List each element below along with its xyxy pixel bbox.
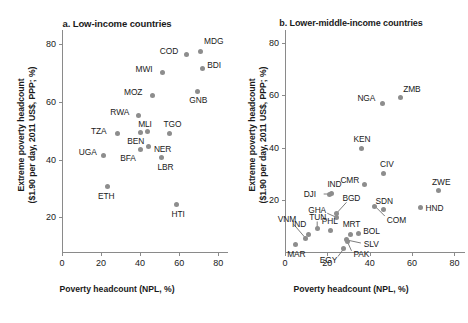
- data-point-zwe[interactable]: [436, 188, 441, 193]
- data-point-mwi[interactable]: [160, 70, 165, 75]
- x-axis-line: [62, 252, 228, 253]
- point-label-ind: IND: [292, 219, 306, 229]
- data-point-mrt[interactable]: [348, 232, 353, 237]
- data-point-mdg[interactable]: [198, 49, 203, 54]
- point-label-pak: PAK: [353, 249, 369, 259]
- data-point-lbr[interactable]: [159, 155, 164, 160]
- panel-title-b: b. Lower-middle-income countries: [234, 18, 468, 28]
- y-axis-label-line2: ($1.90 per day, 2011 US$, PPP; %): [258, 25, 269, 245]
- data-point-gnb[interactable]: [195, 89, 200, 94]
- point-label-rwa: RWA: [110, 107, 129, 117]
- x-tick-mark: [454, 253, 455, 256]
- x-tick-label: 60: [167, 258, 191, 268]
- data-point-hti[interactable]: [174, 202, 179, 207]
- data-point-mar[interactable]: [293, 242, 298, 247]
- point-label-tgo: TGO: [164, 119, 182, 129]
- point-label-ken: KEN: [353, 134, 370, 144]
- point-label-lbr: LBR: [157, 162, 173, 172]
- x-tick-label: 0: [273, 258, 297, 268]
- x-tick-mark: [140, 253, 141, 256]
- x-tick-label: 80: [206, 258, 230, 268]
- data-point-nga[interactable]: [380, 101, 385, 106]
- x-tick-mark: [62, 253, 63, 256]
- point-label-uga: UGA: [79, 147, 97, 157]
- data-point-hnd[interactable]: [418, 205, 423, 210]
- point-label-moz: MOZ: [124, 87, 142, 97]
- x-axis-label: Poverty headcount (NPL, %): [0, 284, 234, 294]
- y-axis-line: [62, 30, 63, 252]
- point-label-nga: NGA: [357, 93, 375, 103]
- data-point-tgo[interactable]: [167, 131, 172, 136]
- point-label-ben: BEN: [127, 136, 144, 146]
- data-point-tun[interactable]: [315, 226, 320, 231]
- point-label-com: COM: [387, 215, 406, 225]
- data-point-civ[interactable]: [381, 171, 386, 176]
- y-axis-label-line1: Extreme poverty headcount: [16, 25, 27, 245]
- data-point-bdi[interactable]: [200, 66, 205, 71]
- y-tick-mark: [59, 44, 62, 45]
- data-point-sdn[interactable]: [381, 207, 386, 212]
- x-tick-label: 40: [128, 258, 152, 268]
- data-point-bol[interactable]: [356, 231, 361, 236]
- x-tick-label: 80: [442, 258, 466, 268]
- data-point-cod[interactable]: [184, 52, 189, 57]
- scatter-panel-b: b. Lower-middle-income countries20406080…: [234, 0, 468, 323]
- point-label-bfa: BFA: [120, 153, 136, 163]
- x-tick-mark: [179, 253, 180, 256]
- data-point-pak[interactable]: [345, 239, 350, 244]
- y-tick-mark: [282, 200, 285, 201]
- x-axis-line: [285, 252, 465, 253]
- data-point-eth[interactable]: [105, 184, 110, 189]
- data-point-ner[interactable]: [146, 144, 151, 149]
- data-point-moz[interactable]: [150, 93, 155, 98]
- point-label-zmb: ZMB: [403, 84, 420, 94]
- x-tick-mark: [285, 253, 286, 256]
- data-point-ken[interactable]: [359, 146, 364, 151]
- point-label-tza: TZA: [91, 126, 107, 136]
- data-point-ind[interactable]: [306, 232, 311, 237]
- point-label-sdn: SDN: [375, 196, 392, 206]
- two-panel-scatter-figure: a. Low-income countries20406080020406080…: [0, 0, 468, 323]
- point-label-gnb: GNB: [189, 95, 207, 105]
- data-point-egy[interactable]: [341, 246, 346, 251]
- data-point-mli[interactable]: [145, 129, 150, 134]
- x-tick-label: 40: [358, 258, 382, 268]
- point-label-slv: SLV: [364, 239, 379, 249]
- point-label-ind: IND: [327, 179, 341, 189]
- x-tick-label: 60: [400, 258, 424, 268]
- y-tick-mark: [59, 160, 62, 161]
- data-point-cmr[interactable]: [362, 182, 367, 187]
- point-label-bol: BOL: [363, 226, 379, 236]
- y-axis-label: Extreme poverty headcount($1.90 per day,…: [247, 25, 269, 245]
- point-label-mwi: MWI: [136, 64, 153, 74]
- point-label-bdi: BDI: [207, 60, 221, 70]
- point-label-bgd: BGD: [342, 193, 360, 203]
- y-axis-label-line1: Extreme poverty headcount: [247, 25, 258, 245]
- data-point-ben[interactable]: [138, 130, 143, 135]
- data-point-tza[interactable]: [115, 131, 120, 136]
- y-tick-mark: [59, 217, 62, 218]
- x-tick-mark: [101, 253, 102, 256]
- y-tick-mark: [282, 148, 285, 149]
- y-tick-mark: [282, 95, 285, 96]
- x-tick-mark: [370, 253, 371, 256]
- data-point-uga[interactable]: [101, 153, 106, 158]
- data-point-rwa[interactable]: [136, 113, 141, 118]
- data-point-phl[interactable]: [328, 228, 333, 233]
- y-tick-mark: [282, 43, 285, 44]
- x-tick-mark: [412, 253, 413, 256]
- y-axis-label: Extreme poverty headcount($1.90 per day,…: [16, 25, 38, 245]
- leader-lines: [234, 0, 468, 323]
- x-tick-label: 20: [89, 258, 113, 268]
- point-label-hnd: HND: [426, 203, 444, 213]
- y-axis-label-line2: ($1.90 per day, 2011 US$, PPP; %): [27, 25, 38, 245]
- data-point-zmb[interactable]: [398, 95, 403, 100]
- point-label-ner: NER: [154, 144, 171, 154]
- x-tick-mark: [218, 253, 219, 256]
- data-point-dji[interactable]: [327, 192, 332, 197]
- point-label-dji: DJI: [304, 189, 316, 199]
- point-label-eth: ETH: [98, 191, 114, 201]
- data-point-com[interactable]: [372, 204, 377, 209]
- point-label-mrt: MRT: [343, 219, 361, 229]
- data-point-bfa[interactable]: [138, 147, 143, 152]
